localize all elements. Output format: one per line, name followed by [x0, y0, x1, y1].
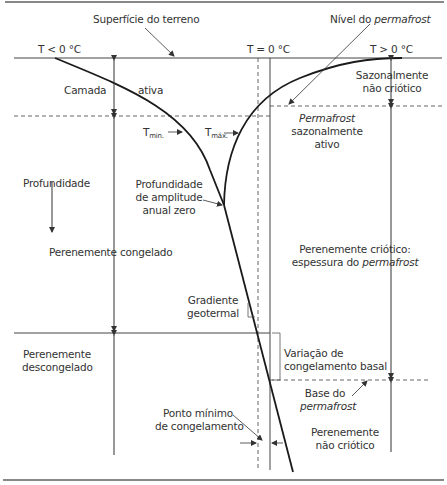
- label-t-zero: T = 0 °C: [247, 43, 290, 56]
- label-t-below: T < 0 °C: [38, 43, 81, 56]
- label-surface: Superfície do terreno: [93, 13, 199, 26]
- label-permafrost-table: Nível do permafrost: [330, 13, 430, 26]
- basal-bracket: [272, 333, 280, 380]
- label-zero-amplitude: Profundidadede amplitudeanual zero: [133, 178, 205, 217]
- label-depth: Profundidade: [23, 177, 90, 190]
- label-perennially-cryotic: Perenemente criótico:espessura do permaf…: [290, 243, 420, 269]
- zero-amplitude-pointer: [203, 200, 222, 205]
- label-active-left: Camada: [64, 84, 106, 97]
- label-t-above: T > 0 °C: [370, 43, 413, 56]
- label-perennially-frozen: Perenemente congelado: [49, 246, 173, 259]
- label-basal: Variação decongelamento basal: [284, 347, 387, 373]
- label-active-right: ativa: [138, 84, 163, 97]
- label-seasonal-active: Permafrostsazonalmenteativo: [285, 112, 369, 151]
- label-geothermal: Gradientegeotermal: [183, 294, 243, 320]
- label-min-freeze: Ponto mínimode congelamento: [155, 407, 241, 433]
- base-pointer: [352, 381, 367, 396]
- label-base: Base dopermafrost: [300, 387, 350, 413]
- label-noncryotic: Perenementenão criótico: [308, 426, 382, 452]
- label-seasonal-noncryotic: Sazonalmentenão criótico: [350, 69, 434, 95]
- label-tmin: Tmin.: [143, 126, 164, 143]
- surface-pointer: [145, 28, 174, 56]
- label-tmax: Tmáx.: [205, 126, 228, 143]
- label-unfrozen: Perenementedescongelado: [22, 348, 92, 374]
